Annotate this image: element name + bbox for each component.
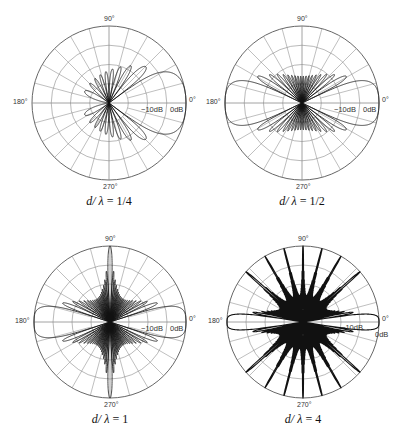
angle-label-90: 90° (298, 235, 309, 242)
polar-plot-svg (0, 0, 404, 440)
angle-label-180: 180° (208, 317, 222, 324)
radial-label-minus10db: −10dB (341, 323, 363, 332)
caption-value: = 4 (305, 412, 321, 426)
radial-label-0db: 0dB (375, 330, 388, 339)
angle-label-0: 0° (382, 315, 389, 322)
plot-caption: d/ λ = 4 (285, 412, 321, 427)
caption-variable: d/ λ (285, 412, 303, 426)
angle-label-270: 270° (297, 401, 311, 408)
